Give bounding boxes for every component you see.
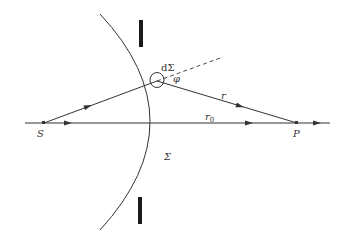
- ray-arrow-1: [83, 103, 92, 110]
- axis-arrow-1: [64, 121, 72, 126]
- diagram-canvas: S P Σ dΣ φ r r0: [0, 0, 344, 242]
- ray-source-to-element: [44, 81, 157, 123]
- label-source: S: [37, 128, 44, 139]
- label-axis-distance: r0: [205, 111, 214, 124]
- surface-element-circle: [150, 73, 164, 88]
- ray-arrow-2: [235, 102, 244, 109]
- source-point: [42, 121, 45, 124]
- axis-arrow-3: [313, 121, 321, 126]
- label-point: P: [292, 128, 300, 139]
- label-wavefront: Σ: [163, 151, 172, 162]
- label-angle: φ: [173, 73, 180, 84]
- diagram-svg: S P Σ dΣ φ r r0: [0, 0, 344, 242]
- axis-arrow-2: [245, 121, 253, 126]
- ray-element-to-point: [157, 81, 297, 123]
- aperture-bottom: [138, 197, 142, 224]
- label-distance: r: [221, 90, 227, 101]
- observation-point: [295, 121, 298, 124]
- aperture-top: [139, 20, 143, 47]
- label-surface-element: dΣ: [161, 62, 174, 73]
